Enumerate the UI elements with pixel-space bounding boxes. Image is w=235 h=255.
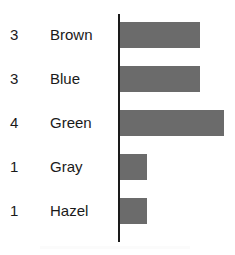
chart-row: 4 Green [0, 110, 235, 136]
bar-green [120, 110, 224, 136]
row-value: 1 [10, 154, 28, 180]
row-category-label: Hazel [50, 198, 88, 224]
row-value: 3 [10, 22, 28, 48]
row-category-label: Green [50, 110, 92, 136]
chart-row: 1 Hazel [0, 198, 235, 224]
row-value: 4 [10, 110, 28, 136]
baseline-artifact [40, 246, 190, 249]
chart-rows: 3 Brown 3 Blue 4 Green 1 Gray 1 Hazel [0, 0, 235, 255]
bar-gray [120, 154, 147, 180]
chart-row: 3 Brown [0, 22, 235, 48]
row-value: 1 [10, 198, 28, 224]
row-category-label: Blue [50, 66, 80, 92]
row-category-label: Brown [50, 22, 93, 48]
row-category-label: Gray [50, 154, 83, 180]
row-value: 3 [10, 66, 28, 92]
chart-row: 3 Blue [0, 66, 235, 92]
bar-blue [120, 66, 200, 92]
bar-brown [120, 22, 200, 48]
bar-chart: 3 Brown 3 Blue 4 Green 1 Gray 1 Hazel [0, 0, 235, 255]
chart-row: 1 Gray [0, 154, 235, 180]
bar-hazel [120, 198, 147, 224]
